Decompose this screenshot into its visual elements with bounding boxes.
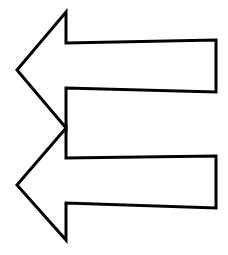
left-arrow-icon [17,128,216,240]
arrows-canvas [0,0,228,255]
arrows-drawing [0,0,228,255]
left-arrow-icon [17,12,216,128]
